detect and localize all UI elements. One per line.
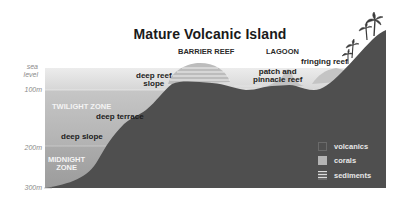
depth-100m: 100m <box>14 86 42 94</box>
legend-item-corals: corals <box>318 154 371 169</box>
barrier-reef-corals <box>168 63 230 84</box>
label-midnight-line2: ZONE <box>48 164 85 172</box>
legend-item-sediments: sediments <box>318 168 371 183</box>
label-deep-slope: deep slope <box>61 133 103 141</box>
depth-200m: 200m <box>14 144 42 152</box>
label-deep-reef-slope-line2: slope <box>136 80 172 88</box>
legend: volcanics corals sediments <box>318 139 371 183</box>
depth-sea-label: sea <box>14 63 38 71</box>
label-fringing-reef: fringing reef <box>301 58 348 66</box>
corals-swatch-icon <box>318 156 327 165</box>
sediments-swatch-icon <box>318 171 327 180</box>
label-deep-terrace: deep terrace <box>96 113 144 121</box>
legend-label-sediments: sediments <box>334 171 371 180</box>
label-barrier-reef: BARRIER REEF <box>178 48 234 56</box>
label-twilight-zone: TWILIGHT ZONE <box>52 103 111 111</box>
diagram-title: Mature Volcanic Island <box>0 26 404 42</box>
legend-label-corals: corals <box>334 156 356 165</box>
depth-sea-level: sea level <box>14 63 38 79</box>
depth-300m: 300m <box>14 184 42 192</box>
label-deep-reef-slope: deep reef slope <box>136 72 172 88</box>
legend-item-volcanics: volcanics <box>318 139 371 154</box>
volcanics-swatch-icon <box>318 142 327 151</box>
depth-level-label: level <box>14 71 38 79</box>
label-lagoon: LAGOON <box>266 48 299 56</box>
label-patch-pinnacle-reef: patch and pinnacle reef <box>253 68 302 84</box>
label-midnight-zone: MIDNIGHT ZONE <box>48 156 85 172</box>
legend-label-volcanics: volcanics <box>334 142 368 151</box>
label-patch-line2: pinnacle reef <box>253 76 302 84</box>
